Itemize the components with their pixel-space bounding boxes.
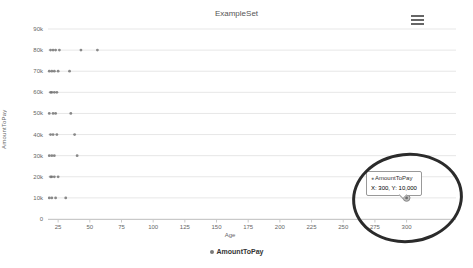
- data-point[interactable]: [80, 49, 83, 52]
- data-point[interactable]: [50, 175, 53, 178]
- data-point[interactable]: [76, 154, 79, 157]
- data-point[interactable]: [96, 49, 99, 52]
- y-tick-label: 20k: [33, 174, 44, 180]
- tooltip-value: X: 300, Y: 10,000: [371, 184, 417, 194]
- y-tick-label: 0: [40, 216, 44, 222]
- data-point[interactable]: [57, 70, 60, 73]
- data-point[interactable]: [52, 112, 55, 115]
- data-point[interactable]: [50, 154, 53, 157]
- data-point[interactable]: [54, 49, 57, 52]
- data-point[interactable]: [73, 133, 76, 136]
- scatter-plot-area: 010k20k30k40k50k60k70k80k90k255075100125…: [0, 0, 473, 268]
- data-point[interactable]: [53, 175, 56, 178]
- y-tick-label: 90k: [33, 26, 44, 32]
- tooltip: ●AmountToPay X: 300, Y: 10,000: [366, 171, 422, 196]
- data-point[interactable]: [53, 70, 56, 73]
- x-axis-title: Age: [180, 232, 280, 238]
- y-tick-label: 10k: [33, 195, 44, 201]
- data-point[interactable]: [52, 133, 55, 136]
- y-tick-label: 30k: [33, 153, 44, 159]
- x-tick-label: 150: [212, 224, 223, 230]
- data-point[interactable]: [54, 112, 57, 115]
- data-point[interactable]: [48, 196, 51, 199]
- data-point[interactable]: [68, 70, 71, 73]
- x-tick-label: 275: [370, 224, 381, 230]
- x-tick-label: 225: [307, 224, 318, 230]
- tooltip-series-row: ●AmountToPay: [371, 174, 417, 184]
- y-tick-label: 60k: [33, 89, 44, 95]
- data-point[interactable]: [58, 49, 61, 52]
- data-point[interactable]: [52, 49, 55, 52]
- data-point[interactable]: [48, 154, 51, 157]
- legend-item-amounttopay[interactable]: AmountToPay: [0, 248, 473, 255]
- data-point[interactable]: [49, 133, 52, 136]
- x-tick-label: 250: [338, 224, 349, 230]
- data-point[interactable]: [48, 70, 51, 73]
- x-tick-label: 75: [118, 224, 125, 230]
- legend-marker-icon: [210, 250, 214, 254]
- data-point[interactable]: [53, 91, 56, 94]
- y-tick-label: 50k: [33, 110, 44, 116]
- data-point[interactable]: [54, 196, 57, 199]
- data-point[interactable]: [50, 91, 53, 94]
- x-tick-label: 100: [148, 224, 159, 230]
- x-tick-label: 25: [55, 224, 62, 230]
- data-point[interactable]: [50, 196, 53, 199]
- data-point[interactable]: [64, 196, 67, 199]
- series-marker-icon: ●: [371, 175, 374, 181]
- highlighted-data-point-core: [405, 196, 408, 199]
- data-point[interactable]: [48, 112, 51, 115]
- x-tick-label: 175: [243, 224, 254, 230]
- legend-label: AmountToPay: [217, 248, 264, 255]
- x-tick-label: 125: [180, 224, 191, 230]
- y-tick-label: 70k: [33, 68, 44, 74]
- data-point[interactable]: [49, 49, 52, 52]
- data-point[interactable]: [55, 91, 58, 94]
- tooltip-series-label: AmountToPay: [375, 175, 412, 181]
- data-point[interactable]: [50, 70, 53, 73]
- y-axis-title: AmountToPay: [1, 93, 9, 165]
- x-tick-label: 300: [402, 224, 413, 230]
- data-point[interactable]: [53, 154, 56, 157]
- data-point[interactable]: [57, 175, 60, 178]
- y-tick-label: 40k: [33, 132, 44, 138]
- chart-container: ExampleSet 010k20k30k40k50k60k70k80k90k2…: [0, 0, 473, 268]
- data-point[interactable]: [69, 112, 72, 115]
- y-tick-label: 80k: [33, 47, 44, 53]
- x-tick-label: 50: [86, 224, 93, 230]
- x-tick-label: 200: [275, 224, 286, 230]
- data-point[interactable]: [55, 133, 58, 136]
